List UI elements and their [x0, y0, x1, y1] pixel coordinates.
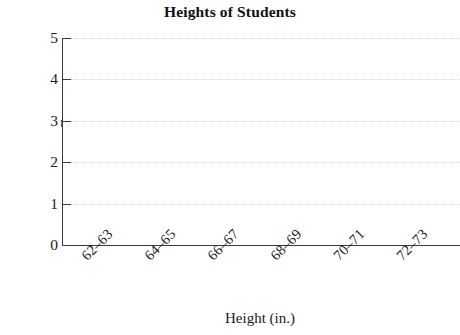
y-axis-tick [63, 204, 71, 205]
y-axis-tick [63, 245, 71, 246]
y-axis-tick [63, 121, 71, 122]
y-axis-tick-label: 5 [32, 30, 58, 46]
bars-layer [63, 38, 460, 245]
plot-area [63, 38, 460, 245]
y-axis-tick [63, 79, 71, 80]
y-axis-tick-label: 3 [32, 113, 58, 129]
y-axis-tick-label: 2 [32, 154, 58, 170]
chart-container: Heights of Students Frequency 543210 62–… [0, 0, 460, 335]
chart-title: Heights of Students [0, 3, 460, 21]
y-axis-tick [63, 162, 71, 163]
x-axis-title: Height (in.) [110, 310, 410, 327]
y-axis-tick-label: 1 [32, 196, 58, 212]
y-axis-tick-label: 0 [32, 237, 58, 253]
y-axis-tick-label: 4 [32, 71, 58, 87]
y-axis-tick-labels: 543210 [30, 0, 58, 335]
y-axis-tick [63, 38, 71, 39]
y-axis-line [62, 38, 63, 246]
